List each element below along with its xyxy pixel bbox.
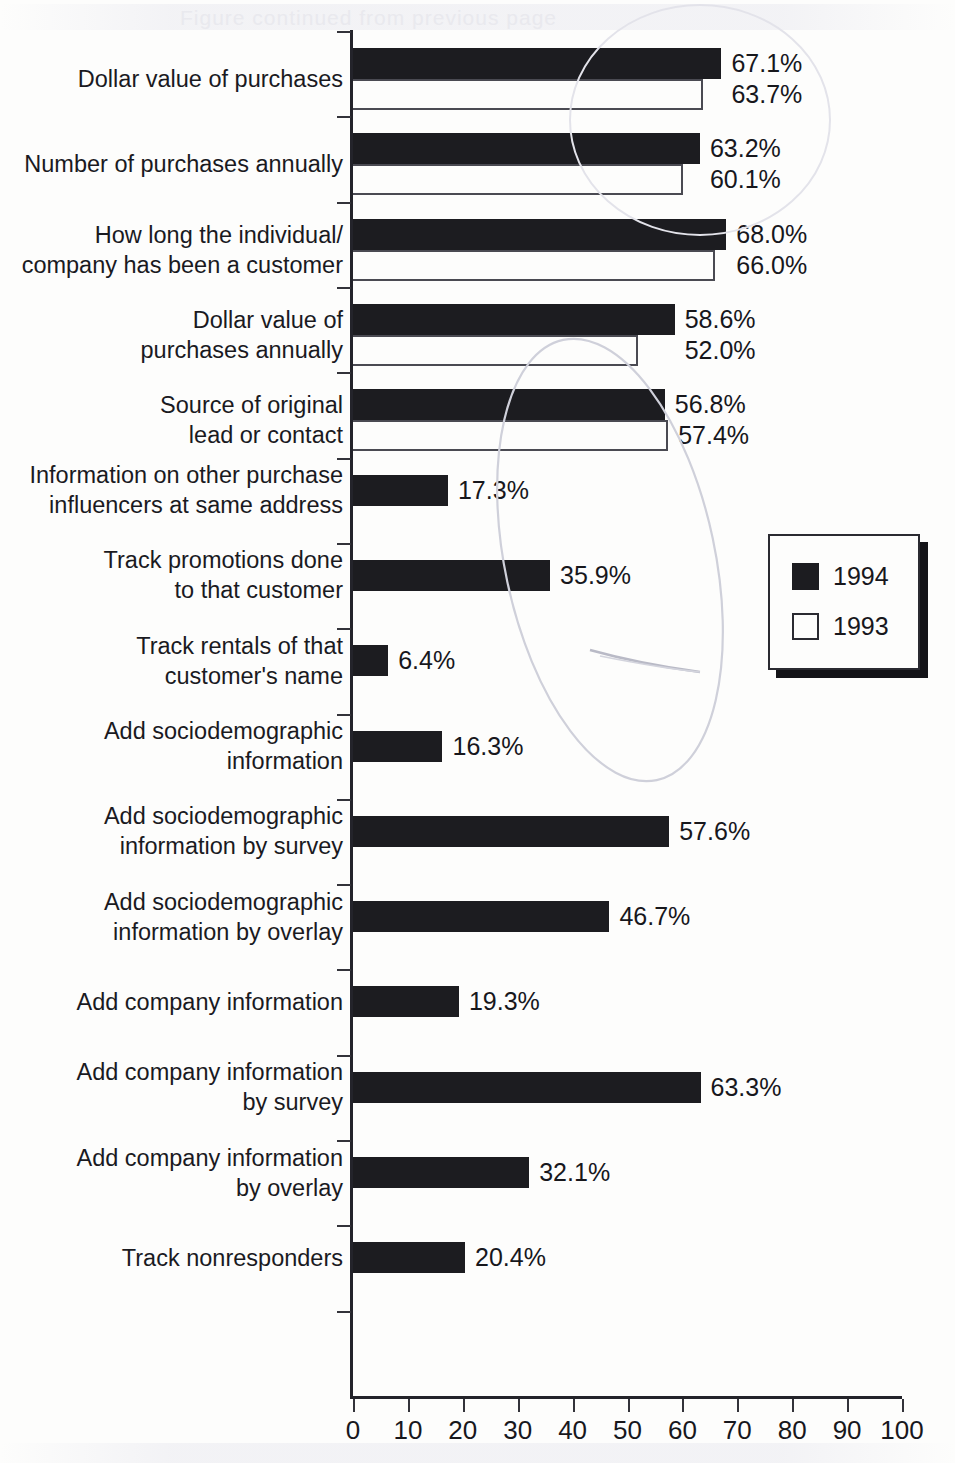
bar-1994[interactable]	[353, 645, 388, 676]
x-axis-tick	[353, 1399, 355, 1412]
x-axis-tick	[573, 1399, 575, 1412]
legend-label-1993: 1993	[833, 613, 889, 640]
category-label: Dollar value of purchases	[0, 64, 343, 94]
category-label: Add sociodemographic information	[0, 716, 343, 776]
bar-1994[interactable]	[353, 1157, 529, 1188]
category-label: Source of original lead or contact	[0, 390, 343, 450]
bar-value-label-1994: 6.4%	[398, 645, 455, 676]
chart-category-row: Add company information by survey63.3%	[0, 1055, 955, 1140]
bar-1994[interactable]	[353, 986, 459, 1017]
y-axis-tick	[337, 1311, 351, 1313]
x-axis-tick-label: 60	[668, 1415, 697, 1445]
x-axis-tick	[792, 1399, 794, 1412]
category-label: Track promotions done to that customer	[0, 545, 343, 605]
bar-1994[interactable]	[353, 304, 675, 335]
chart-category-row: How long the individual/ company has bee…	[0, 202, 955, 287]
category-label: Add sociodemographic information by over…	[0, 887, 343, 947]
chart-category-row: Number of purchases annually63.2%60.1%	[0, 116, 955, 201]
legend-item-1994[interactable]: 1994	[792, 563, 889, 590]
legend-item-1993[interactable]: 1993	[792, 613, 889, 640]
x-axis-tick	[682, 1399, 684, 1412]
chart-category-row: Add sociodemographic information by surv…	[0, 799, 955, 884]
chart-category-row: Dollar value of purchases annually58.6%5…	[0, 287, 955, 372]
x-axis-tick	[463, 1399, 465, 1412]
chart-page: Dollar value of purchases67.1%63.7%Numbe…	[0, 0, 955, 1463]
bar-value-label-1993: 57.4%	[678, 420, 749, 451]
x-axis-tick-label: 80	[778, 1415, 807, 1445]
bar-value-label-1994: 20.4%	[475, 1242, 546, 1273]
x-axis-tick	[518, 1399, 520, 1412]
x-axis-tick-label: 40	[558, 1415, 587, 1445]
bar-1994[interactable]	[353, 560, 550, 591]
bar-1994[interactable]	[353, 48, 721, 79]
x-axis-tick	[628, 1399, 630, 1412]
chart-category-row: Dollar value of purchases67.1%63.7%	[0, 31, 955, 116]
chart-category-row: Add sociodemographic information by over…	[0, 884, 955, 969]
bar-value-label-1994: 63.3%	[711, 1072, 782, 1103]
category-label: Add company information	[0, 987, 343, 1017]
bar-1994[interactable]	[353, 816, 669, 847]
x-axis-tick	[902, 1399, 904, 1412]
bar-value-label-1994: 67.1%	[731, 48, 802, 79]
bar-chart-plot-area: Dollar value of purchases67.1%63.7%Numbe…	[0, 0, 955, 1463]
category-label: Dollar value of purchases annually	[0, 305, 343, 365]
bar-1994[interactable]	[353, 389, 665, 420]
chart-category-row: Add company information19.3%	[0, 969, 955, 1054]
legend-label-1994: 1994	[833, 563, 889, 590]
bar-value-label-1994: 63.2%	[710, 133, 781, 164]
category-label: Information on other purchase influencer…	[0, 460, 343, 520]
bar-value-label-1993: 60.1%	[710, 164, 781, 195]
bar-value-label-1994: 58.6%	[685, 304, 756, 335]
bar-value-label-1994: 35.9%	[560, 560, 631, 591]
bar-1994[interactable]	[353, 731, 442, 762]
category-label: Add company information by survey	[0, 1057, 343, 1117]
bar-value-label-1993: 66.0%	[736, 250, 807, 281]
bar-value-label-1994: 56.8%	[675, 389, 746, 420]
category-label: Add sociodemographic information by surv…	[0, 801, 343, 861]
bar-1993[interactable]	[353, 79, 703, 110]
legend-swatch-filled-icon	[792, 563, 819, 590]
chart-legend[interactable]: 1994 1993	[768, 534, 920, 670]
bar-1993[interactable]	[353, 250, 715, 281]
x-axis-tick-label: 0	[346, 1415, 360, 1445]
bar-1994[interactable]	[353, 475, 448, 506]
bar-value-label-1994: 17.3%	[458, 475, 529, 506]
bar-value-label-1993: 52.0%	[685, 335, 756, 366]
bar-1994[interactable]	[353, 901, 609, 932]
chart-category-row: Add sociodemographic information16.3%	[0, 714, 955, 799]
bar-1994[interactable]	[353, 1072, 701, 1103]
chart-category-row: Source of original lead or contact56.8%5…	[0, 372, 955, 457]
x-axis-tick-label: 20	[448, 1415, 477, 1445]
category-label: How long the individual/ company has bee…	[0, 220, 343, 280]
chart-category-row: Track nonresponders20.4%	[0, 1225, 955, 1310]
legend-swatch-open-icon	[792, 613, 819, 640]
bar-1994[interactable]	[353, 1242, 465, 1273]
category-label: Number of purchases annually	[0, 149, 343, 179]
category-label: Track nonresponders	[0, 1243, 343, 1273]
x-axis-tick-label: 70	[723, 1415, 752, 1445]
bar-value-label-1994: 16.3%	[452, 731, 523, 762]
bar-value-label-1994: 57.6%	[679, 816, 750, 847]
x-axis-tick	[408, 1399, 410, 1412]
bar-value-label-1994: 68.0%	[736, 219, 807, 250]
x-axis-tick	[847, 1399, 849, 1412]
bar-value-label-1994: 46.7%	[619, 901, 690, 932]
x-axis-tick-label: 10	[393, 1415, 422, 1445]
bar-1993[interactable]	[353, 335, 638, 366]
bar-1994[interactable]	[353, 133, 700, 164]
x-axis-tick-label: 30	[503, 1415, 532, 1445]
category-label: Add company information by overlay	[0, 1143, 343, 1203]
bar-value-label-1994: 19.3%	[469, 986, 540, 1017]
x-axis-tick-label: 100	[880, 1415, 923, 1445]
bar-1994[interactable]	[353, 219, 726, 250]
x-axis-tick	[737, 1399, 739, 1412]
bar-1993[interactable]	[353, 164, 683, 195]
bar-1993[interactable]	[353, 420, 668, 451]
bar-value-label-1994: 32.1%	[539, 1157, 610, 1188]
chart-category-row: Add company information by overlay32.1%	[0, 1140, 955, 1225]
x-axis-line	[350, 1396, 902, 1399]
x-axis-tick-label: 50	[613, 1415, 642, 1445]
chart-category-row: Information on other purchase influencer…	[0, 458, 955, 543]
category-label: Track rentals of that customer's name	[0, 631, 343, 691]
x-axis-tick-label: 90	[833, 1415, 862, 1445]
